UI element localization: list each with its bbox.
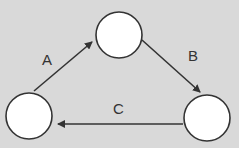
node-top (96, 12, 142, 58)
edge-label-c: C (113, 100, 124, 117)
node-left (6, 93, 52, 139)
edge-label-a: A (42, 51, 52, 68)
cycle-diagram: A B C (0, 0, 239, 148)
node-right (184, 95, 230, 141)
edge-label-b: B (188, 47, 198, 64)
